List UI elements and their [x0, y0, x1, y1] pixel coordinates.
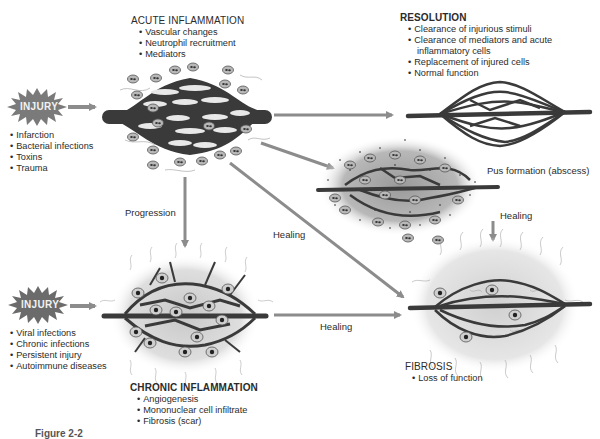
feature-item: Mediators [139, 49, 236, 60]
injury-acute-causes: Infarction Bacterial infections Toxins T… [10, 130, 93, 174]
figure-caption: Figure 2-2 [35, 428, 83, 439]
injury-chronic-causes: Viral infections Chronic infections Pers… [10, 328, 107, 372]
resolution-features: Clearance of injurious stimuli Clearance… [408, 24, 552, 79]
healing-label-abscess: Healing [500, 210, 532, 221]
healing-label-chronic: Healing [320, 321, 352, 332]
chronic-inflammation-title: CHRONIC INFLAMMATION [130, 382, 258, 393]
feature-item: Fibrosis (scar) [137, 416, 247, 427]
acute-inflammation-title: ACUTE INFLAMMATION [131, 15, 244, 26]
cause-item: Trauma [10, 163, 93, 174]
fibrosis-features: Loss of function [412, 373, 483, 384]
feature-item: Vascular changes [139, 27, 236, 38]
cause-item: Chronic infections [10, 339, 107, 350]
feature-item: Clearance of injurious stimuli [408, 24, 552, 35]
feature-item: Neutrophil recruitment [139, 38, 236, 49]
cause-item: Viral infections [10, 328, 107, 339]
cause-item: Infarction [10, 130, 93, 141]
fibrosis-title: FIBROSIS [405, 361, 452, 372]
feature-item: Replacement of injured cells [408, 57, 552, 68]
resolution-title: RESOLUTION [400, 12, 467, 23]
abscess-label: Pus formation (abscess) [487, 165, 589, 176]
cause-item: Persistent injury [10, 350, 107, 361]
chronic-inflammation-features: Angiogenesis Mononuclear cell infiltrate… [137, 394, 247, 427]
injury-acute-label: INJURY [20, 101, 58, 112]
cause-item: Autoimmune diseases [10, 361, 107, 372]
fibrosis-illustration [410, 229, 590, 380]
feature-item-continued: inflammatory cells [408, 46, 552, 57]
feature-item: Loss of function [412, 373, 483, 384]
arrow-acute-to-abscess [261, 143, 333, 168]
acute-inflammation-features: Vascular changes Neutrophil recruitment … [139, 27, 236, 60]
resolution-illustration [408, 82, 590, 146]
acute-inflammation-illustration [102, 63, 272, 171]
progression-label: Progression [125, 207, 176, 218]
abscess-illustration [318, 136, 498, 244]
cause-item: Bacterial infections [10, 141, 93, 152]
feature-item: Angiogenesis [137, 394, 247, 405]
feature-item: Normal function [408, 68, 552, 79]
cause-item: Toxins [10, 152, 93, 163]
chronic-inflammation-illustration [100, 243, 273, 387]
injury-chronic-label: INJURY [21, 299, 59, 310]
feature-item: Mononuclear cell infiltrate [137, 405, 247, 416]
feature-item: Clearance of mediators and acute [408, 35, 552, 46]
healing-label-diagonal: Healing [273, 229, 305, 240]
